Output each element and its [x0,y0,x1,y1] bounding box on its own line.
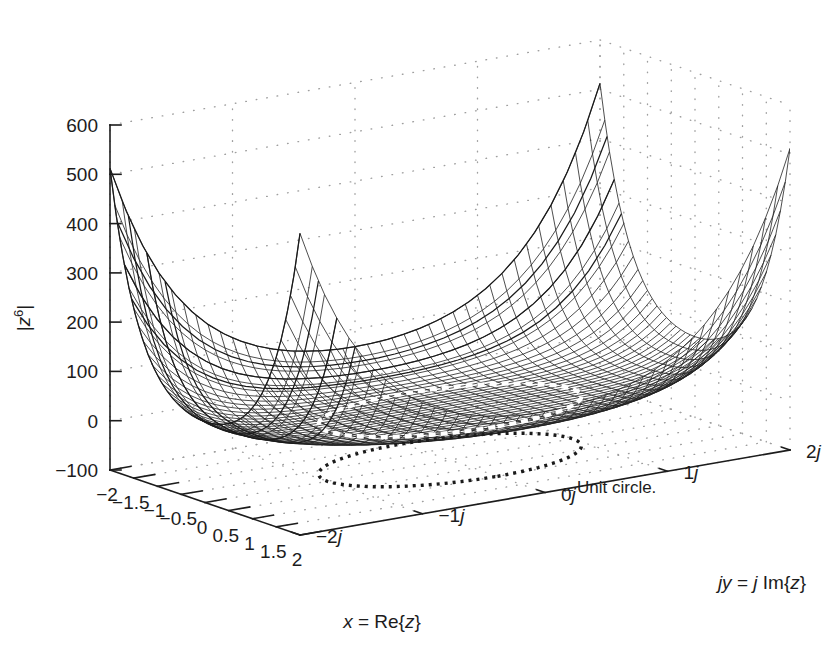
y-label-arg: z [789,572,800,593]
z-tick-label: −100 [55,460,98,481]
x-label-close: } [414,611,420,632]
x-tick-label: 0.5 [213,525,239,546]
y-axis-label: jy = j Im{z} [715,572,806,593]
z-axis-label: |z6| [11,305,34,332]
surface-plot-figure: 6005004003002001000−100 −2−1.5−1−0.500.5… [0,0,829,646]
svg-text:|z6|: |z6| [11,305,34,332]
x-axis-label: x = Re{z} [342,611,421,632]
unit-circle-annotation: ← Unit circle. [560,478,656,497]
z-tick-label: 100 [66,361,98,382]
z-tick-label: 300 [66,263,98,284]
y-tick-label: −2j [316,526,343,547]
z-tick-label: 400 [66,214,98,235]
z-label-base: z [13,316,34,327]
x-tick-label: 1 [244,533,255,554]
z-tick-label: 200 [66,312,98,333]
x-tick-label: −0.5 [160,508,198,529]
y-tick-label: −1j [439,505,466,526]
unit-circle-label: Unit circle. [577,478,656,497]
y-tick-label: 1j [684,462,700,483]
plot-canvas: 6005004003002001000−100 −2−1.5−1−0.500.5… [0,0,829,646]
z-tick-label: 600 [66,115,98,136]
z-tick-label: 0 [87,411,98,432]
figure-background [0,0,829,646]
z-label-bar-right: | [13,305,34,310]
x-label-fn: Re{ [374,611,405,632]
y-label-var: jy [715,572,733,593]
x-tick-label: 1.5 [260,541,286,562]
unit-circle-arrow: ← [560,478,577,497]
y-label-fn: Im{ [758,572,791,593]
x-label-eq: = [353,611,375,632]
x-tick-label: 0 [197,517,208,538]
z-label-exponent: 6 [11,310,26,317]
y-tick-label: 2j [806,441,822,462]
y-label-close: } [800,572,806,593]
z-tick-label: 500 [66,164,98,185]
x-tick-label: 2 [292,549,303,570]
y-label-eq: = [732,572,754,593]
x-label-arg: z [404,611,415,632]
